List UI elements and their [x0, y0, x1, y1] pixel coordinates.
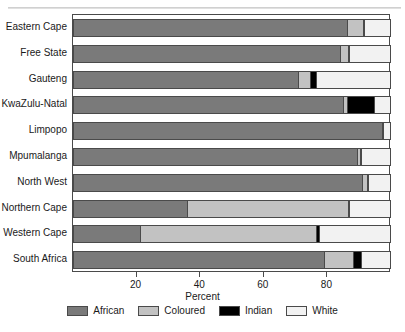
- bar-segment-indian: [353, 251, 360, 269]
- bar-segment-african: [73, 225, 140, 243]
- stacked-bar-chart: Eastern CapeFree StateGautengKwaZulu-Nat…: [0, 0, 405, 332]
- legend-item-african: African: [67, 306, 124, 316]
- legend-swatch-icon: [286, 306, 307, 316]
- bar-segment-coloured: [187, 200, 348, 218]
- bar-segment-coloured: [298, 71, 309, 89]
- legend-label: African: [93, 306, 124, 316]
- x-tick-mark: [199, 272, 200, 277]
- bar-segment-coloured: [347, 19, 363, 37]
- bar-row: [73, 200, 389, 218]
- category-label: Limpopo: [29, 125, 67, 135]
- bar-segment-coloured: [340, 45, 348, 63]
- x-axis-title: Percent: [0, 291, 405, 302]
- bar-segment-african: [73, 200, 187, 218]
- bar-row: [73, 251, 389, 269]
- bar-segment-african: [73, 148, 357, 166]
- chart-legend: AfricanColouredIndianWhite: [0, 306, 405, 316]
- legend-label: Indian: [245, 306, 272, 316]
- legend-item-indian: Indian: [219, 306, 272, 316]
- bar-segment-white: [374, 96, 391, 114]
- x-tick-mark: [136, 272, 137, 277]
- bar-segment-african: [73, 122, 382, 140]
- bar-segment-african: [73, 174, 362, 192]
- category-label: Eastern Cape: [6, 22, 67, 32]
- bar-segment-white: [349, 200, 391, 218]
- category-label: Western Cape: [3, 228, 67, 238]
- bar-row: [73, 19, 389, 37]
- x-tick-label: 60: [257, 279, 268, 290]
- legend-swatch-icon: [138, 306, 159, 316]
- top-divider-rule: [8, 7, 401, 9]
- bar-segment-white: [361, 148, 391, 166]
- bar-segment-african: [73, 71, 298, 89]
- category-label: Gauteng: [29, 74, 67, 84]
- bar-segment-white: [383, 122, 391, 140]
- bar-segment-white: [349, 45, 391, 63]
- legend-item-white: White: [286, 306, 338, 316]
- bar-segment-white: [364, 19, 391, 37]
- bar-row: [73, 71, 389, 89]
- top-clipped-text: [8, 1, 401, 7]
- legend-label: Coloured: [164, 306, 205, 316]
- legend-swatch-icon: [219, 306, 240, 316]
- bars-layer: [73, 15, 389, 271]
- bar-segment-white: [368, 174, 391, 192]
- bar-segment-african: [73, 45, 340, 63]
- bar-segment-african: [73, 96, 343, 114]
- bar-row: [73, 122, 389, 140]
- bar-segment-indian: [347, 96, 374, 114]
- bottom-clipped-text: [14, 322, 314, 331]
- x-tick-label: 80: [321, 279, 332, 290]
- category-label: Mpumalanga: [9, 151, 67, 161]
- bar-segment-african: [73, 19, 347, 37]
- bar-row: [73, 225, 389, 243]
- bar-row: [73, 148, 389, 166]
- bar-segment-white: [316, 71, 391, 89]
- bar-segment-coloured: [324, 251, 353, 269]
- plot-area: [72, 14, 390, 272]
- category-label: Free State: [20, 48, 67, 58]
- legend-label: White: [312, 306, 338, 316]
- category-label: North West: [17, 177, 67, 187]
- x-tick-label: 40: [194, 279, 205, 290]
- legend-item-coloured: Coloured: [138, 306, 205, 316]
- bar-row: [73, 96, 389, 114]
- bar-segment-white: [361, 251, 391, 269]
- bar-segment-coloured: [140, 225, 316, 243]
- bar-row: [73, 45, 389, 63]
- legend-swatch-icon: [67, 306, 88, 316]
- x-tick-label: 20: [130, 279, 141, 290]
- bar-segment-white: [319, 225, 391, 243]
- bar-segment-african: [73, 251, 324, 269]
- bar-row: [73, 174, 389, 192]
- x-tick-mark: [326, 272, 327, 277]
- category-label: South Africa: [13, 254, 67, 264]
- category-label: KwaZulu-Natal: [1, 99, 67, 109]
- category-label: Northern Cape: [1, 203, 67, 213]
- x-tick-mark: [263, 272, 264, 277]
